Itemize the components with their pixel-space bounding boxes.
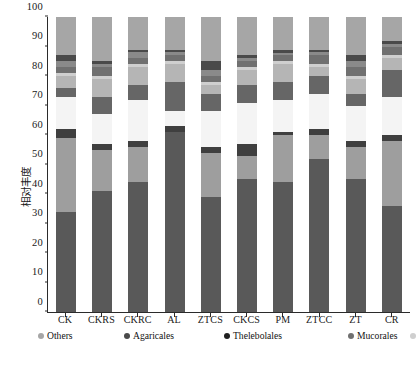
bar-segment[interactable] bbox=[382, 206, 402, 312]
bar-segment[interactable] bbox=[309, 94, 329, 129]
bar-segment[interactable] bbox=[273, 100, 293, 132]
bar-segment[interactable] bbox=[382, 70, 402, 97]
bar-segment[interactable] bbox=[273, 182, 293, 312]
bar-segment[interactable] bbox=[309, 76, 329, 94]
bar-segment[interactable] bbox=[309, 135, 329, 159]
legend-item-label: Mucorales bbox=[357, 331, 398, 341]
bar-segment[interactable] bbox=[382, 141, 402, 206]
x-tick-label: PM bbox=[265, 314, 301, 325]
bar-segment[interactable] bbox=[128, 85, 148, 100]
bar-column bbox=[374, 17, 410, 312]
stacked-bar[interactable] bbox=[92, 17, 112, 312]
bar-segment[interactable] bbox=[346, 94, 366, 106]
bar-column bbox=[301, 17, 337, 312]
bar-segment[interactable] bbox=[56, 88, 76, 97]
bar-segment[interactable] bbox=[346, 67, 366, 76]
stacked-bar[interactable] bbox=[201, 17, 221, 312]
bar-segment[interactable] bbox=[92, 150, 112, 191]
bar-segment[interactable] bbox=[201, 17, 221, 61]
stacked-bar[interactable] bbox=[273, 17, 293, 312]
bar-segment[interactable] bbox=[382, 47, 402, 56]
bar-segment[interactable] bbox=[92, 17, 112, 61]
legend-color-swatch-icon bbox=[348, 333, 354, 339]
bar-segment[interactable] bbox=[128, 147, 148, 182]
bar-segment[interactable] bbox=[237, 85, 257, 103]
bar-segment[interactable] bbox=[165, 132, 185, 312]
bar-segment[interactable] bbox=[237, 156, 257, 180]
bar-segment[interactable] bbox=[128, 182, 148, 312]
bar-segment[interactable] bbox=[346, 106, 366, 141]
bar-segment[interactable] bbox=[237, 70, 257, 85]
bar-segment[interactable] bbox=[346, 147, 366, 179]
bar-column bbox=[120, 17, 156, 312]
bar-segment[interactable] bbox=[201, 85, 221, 94]
bar-segment[interactable] bbox=[237, 17, 257, 55]
bar-segment[interactable] bbox=[382, 17, 402, 41]
bar-segment[interactable] bbox=[92, 191, 112, 312]
bar-segment[interactable] bbox=[56, 17, 76, 55]
stacked-bar[interactable] bbox=[128, 17, 148, 312]
bar-segment[interactable] bbox=[92, 67, 112, 76]
x-axis-labels: CKCKRSCKRCALZTCSCKCSPMZTCCZTCR bbox=[47, 314, 410, 325]
legend-item[interactable]: Thelebolales bbox=[224, 331, 348, 341]
bar-segment[interactable] bbox=[56, 76, 76, 88]
bar-segment[interactable] bbox=[201, 197, 221, 312]
legend-color-swatch-icon bbox=[224, 333, 230, 339]
y-tick-label: 60 bbox=[32, 119, 48, 130]
bar-segment[interactable] bbox=[309, 67, 329, 76]
bar-column bbox=[265, 17, 301, 312]
bar-segment[interactable] bbox=[382, 58, 402, 70]
bar-segment[interactable] bbox=[56, 129, 76, 138]
legend-item-label: Others bbox=[47, 331, 73, 341]
y-tick-label: 20 bbox=[32, 237, 48, 248]
bar-segment[interactable] bbox=[273, 82, 293, 100]
legend-item-label: Thelebolales bbox=[233, 331, 282, 341]
bar-segment[interactable] bbox=[128, 100, 148, 141]
bar-segment[interactable] bbox=[56, 212, 76, 312]
bar-segment[interactable] bbox=[201, 94, 221, 112]
stacked-bar[interactable] bbox=[165, 17, 185, 312]
legend-color-swatch-icon bbox=[38, 333, 44, 339]
bar-segment[interactable] bbox=[309, 159, 329, 312]
bar-segment[interactable] bbox=[56, 138, 76, 212]
stacked-bar-group bbox=[48, 17, 410, 312]
bar-segment[interactable] bbox=[346, 79, 366, 94]
legend-item[interactable]: Agaricales bbox=[124, 331, 224, 341]
bar-segment[interactable] bbox=[92, 79, 112, 97]
stacked-bar[interactable] bbox=[237, 17, 257, 312]
bar-segment[interactable] bbox=[237, 179, 257, 312]
bar-segment[interactable] bbox=[201, 153, 221, 197]
bar-segment[interactable] bbox=[237, 103, 257, 144]
bar-segment[interactable] bbox=[346, 179, 366, 312]
bar-segment[interactable] bbox=[309, 17, 329, 49]
y-tick-label: 40 bbox=[32, 178, 48, 189]
bar-segment[interactable] bbox=[165, 111, 185, 126]
legend-item[interactable]: Mortierellales bbox=[410, 331, 418, 341]
bar-segment[interactable] bbox=[56, 97, 76, 129]
bar-segment[interactable] bbox=[92, 97, 112, 115]
bar-segment[interactable] bbox=[346, 17, 366, 55]
x-tick-label: ZT bbox=[338, 314, 374, 325]
legend-item[interactable]: Mucorales bbox=[348, 331, 410, 341]
bar-segment[interactable] bbox=[273, 64, 293, 82]
bar-segment[interactable] bbox=[201, 61, 221, 70]
bar-segment[interactable] bbox=[273, 17, 293, 49]
bar-segment[interactable] bbox=[382, 97, 402, 135]
bar-segment[interactable] bbox=[165, 64, 185, 82]
bar-segment[interactable] bbox=[309, 55, 329, 64]
y-tick-label: 30 bbox=[32, 208, 48, 219]
bar-segment[interactable] bbox=[165, 17, 185, 49]
stacked-bar[interactable] bbox=[56, 17, 76, 312]
bar-segment[interactable] bbox=[201, 111, 221, 146]
bar-segment[interactable] bbox=[237, 144, 257, 156]
bar-segment[interactable] bbox=[165, 82, 185, 112]
stacked-bar[interactable] bbox=[309, 17, 329, 312]
bar-segment[interactable] bbox=[92, 114, 112, 144]
bar-segment[interactable] bbox=[128, 17, 148, 49]
stacked-bar[interactable] bbox=[346, 17, 366, 312]
bar-segment[interactable] bbox=[128, 67, 148, 85]
stacked-bar[interactable] bbox=[382, 17, 402, 312]
bar-segment[interactable] bbox=[273, 135, 293, 182]
legend-item[interactable]: Others bbox=[38, 331, 124, 341]
legend-color-swatch-icon bbox=[124, 333, 130, 339]
